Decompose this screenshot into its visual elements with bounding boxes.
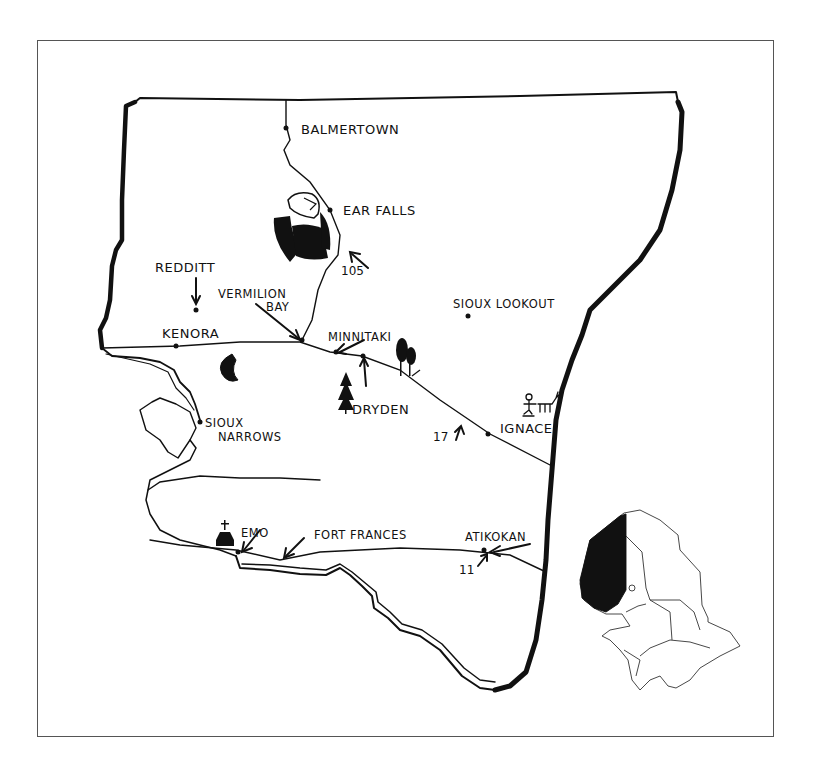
label-atikokan: ATIKOKAN <box>465 530 526 544</box>
label-ear-falls: EAR FALLS <box>343 204 416 218</box>
label-vermilion: VERMILION <box>218 287 286 301</box>
route-label-105: 105 <box>341 264 364 278</box>
label-sioux: SIOUX <box>205 416 244 430</box>
label-narrows: NARROWS <box>218 430 282 444</box>
eagle-icon <box>274 193 330 262</box>
label-emo: EMO <box>241 526 269 540</box>
hunter-deer-icon <box>523 392 560 416</box>
label-dryden: DRYDEN <box>352 403 409 417</box>
label-kenora: KENORA <box>162 327 219 341</box>
label-balmertown: BALMERTOWN <box>301 123 399 137</box>
label-sioux-lookout: SIOUX LOOKOUT <box>453 297 555 311</box>
map-canvas <box>0 0 816 782</box>
label-minnitaki: MINNITAKI <box>328 330 391 344</box>
label-fort-frances: FORT FRANCES <box>314 528 407 542</box>
route-label-17: 17 <box>433 430 448 444</box>
ontario-inset-map <box>580 510 740 690</box>
label-bay: BAY <box>266 300 289 314</box>
fish-icon <box>220 354 238 381</box>
label-redditt: REDDITT <box>155 261 215 275</box>
label-ignace: IGNACE <box>500 422 553 436</box>
church-icon <box>216 520 234 546</box>
route-label-11: 11 <box>459 563 474 577</box>
